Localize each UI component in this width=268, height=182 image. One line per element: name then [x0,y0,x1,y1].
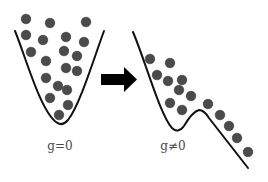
particle [59,46,69,56]
particle [53,81,63,91]
particle [177,75,187,85]
particle [81,17,91,27]
particle [38,35,48,45]
transition-arrow-icon [101,67,137,92]
particle [54,110,64,120]
particle [145,54,155,64]
particle [152,70,162,80]
particle [203,99,213,109]
particle [61,63,71,73]
particle [41,73,51,83]
particle [21,14,31,24]
particle [45,93,55,103]
particle [79,37,89,47]
particle [174,85,184,95]
particle [186,91,196,101]
particle [45,18,55,28]
particle [177,105,187,115]
particle [165,98,175,108]
particle [165,58,175,68]
left-panel-g-zero [15,14,104,124]
particle [62,85,72,95]
particle [224,121,234,131]
label-g-equals-zero: g=0 [47,139,72,153]
particle [163,76,173,86]
particle [61,32,71,42]
particle [26,47,36,57]
right-panel-g-nonzero [133,32,253,168]
particle [41,56,51,66]
particle [21,30,31,40]
left-particle-group [21,14,91,120]
particle [243,147,253,157]
particle [72,51,82,61]
label-g-not-zero: g≠0 [160,139,185,153]
diagram-canvas [0,0,268,182]
particle [215,110,225,120]
particle [72,66,82,76]
particle [232,133,242,143]
particle [63,100,73,110]
